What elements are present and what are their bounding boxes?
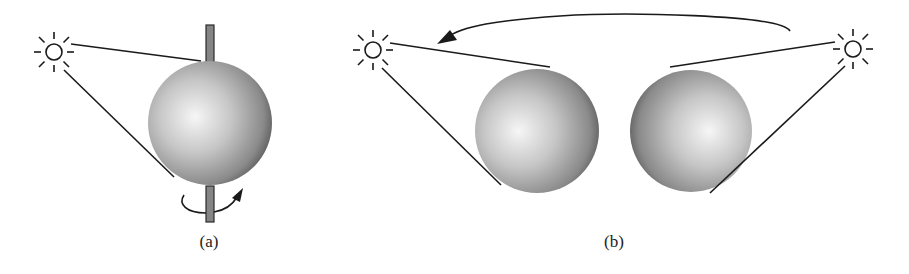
light-ray-upper [71,44,201,61]
sphere-left [475,69,599,193]
panel-b-label: (b) [604,232,624,252]
sphere-right [630,70,752,192]
curved-arrow-left-icon [437,14,790,44]
light-ray-left-upper [390,43,550,67]
sun-icon-left [353,30,393,70]
rotation-axis-top [206,25,214,62]
sun-icon [34,32,74,72]
figure: (a) (b) [0,0,909,274]
light-ray-right-upper [670,42,835,67]
sun-icon-right [833,29,873,69]
rotation-axis-bottom [206,186,214,222]
panel-a-label: (a) [200,232,219,252]
diagram-canvas [0,0,909,274]
panel-a [34,25,272,222]
panel-b [353,14,873,193]
sphere [148,61,272,185]
